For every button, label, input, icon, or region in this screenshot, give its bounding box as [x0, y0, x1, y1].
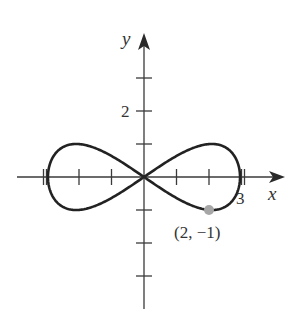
- x-axis-label: x: [267, 183, 277, 204]
- diagram-canvas: y x 3 2 (2, −1): [0, 0, 302, 331]
- x-tick-label-3: 3: [236, 189, 245, 208]
- point-marker: [204, 205, 214, 215]
- y-axis-label: y: [120, 28, 131, 49]
- point-label: (2, −1): [174, 223, 220, 242]
- y-tick-label-2: 2: [121, 102, 130, 121]
